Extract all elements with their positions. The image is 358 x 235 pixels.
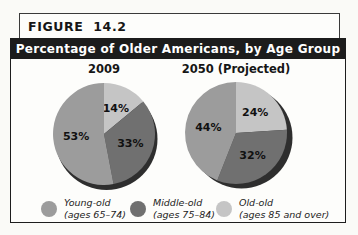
legend-item-young-old: Young-old (ages 65–74) [41, 196, 126, 220]
legend-detail: (ages 75–84) [153, 209, 215, 220]
legend-label-middle-old: Middle-old (ages 75–84) [153, 196, 215, 220]
pie-slice-label: 44% [195, 121, 221, 134]
pie-slice-label: 14% [103, 102, 129, 115]
legend-swatch-old-old [216, 201, 232, 217]
legend-item-middle-old: Middle-old (ages 75–84) [130, 196, 215, 220]
pie-chart-2009: 14%33%53% [44, 74, 164, 194]
pie-slice-label: 33% [117, 137, 143, 150]
legend-swatch-young-old [41, 201, 57, 217]
legend-detail: (ages 85 and over) [239, 209, 329, 220]
pie-chart-2050: 24%32%44% [176, 73, 296, 193]
legend-label-old-old: Old-old (ages 85 and over) [239, 196, 329, 220]
legend-item-old-old: Old-old (ages 85 and over) [216, 196, 329, 220]
legend-name: Young-old [64, 197, 111, 208]
figure-title: Percentage of Older Americans, by Age Gr… [16, 42, 341, 56]
figure-label: FIGURE 14.2 [28, 19, 127, 34]
figure-page: FIGURE 14.2 Percentage of Older American… [0, 0, 358, 235]
figure-title-bar: Percentage of Older Americans, by Age Gr… [10, 38, 346, 59]
legend-label-young-old: Young-old (ages 65–74) [64, 196, 126, 220]
legend-name: Old-old [239, 197, 273, 208]
pie-slice-label: 24% [242, 106, 268, 119]
legend-name: Middle-old [153, 197, 202, 208]
pie-slice-label: 53% [63, 130, 89, 143]
pie-slice-label: 32% [239, 149, 265, 162]
legend-swatch-middle-old [130, 201, 146, 217]
legend-detail: (ages 65–74) [64, 209, 126, 220]
